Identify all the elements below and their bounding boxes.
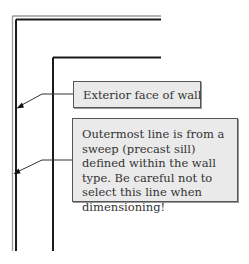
- leader-exterior-face: [17, 94, 74, 109]
- callout-text: Exterior face of wall: [83, 88, 201, 102]
- callout-text: Outermost line is from a sweep (precast …: [82, 127, 224, 214]
- callout-exterior-face: Exterior face of wall: [73, 81, 201, 108]
- leader-outermost-line: [14, 160, 73, 174]
- arrowhead-icon: [17, 103, 25, 109]
- callout-outermost-line: Outermost line is from a sweep (precast …: [72, 118, 238, 202]
